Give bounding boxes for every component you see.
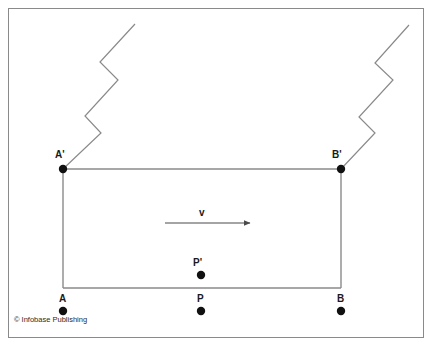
publisher-credit: © Infobase Publishing — [14, 316, 87, 324]
zigzag-line-right — [341, 25, 409, 169]
point-b — [337, 307, 345, 315]
label-p-prime: P' — [193, 258, 202, 268]
point-a-prime — [59, 165, 67, 173]
label-b: B — [337, 294, 344, 304]
label-b-prime: B' — [332, 150, 342, 160]
point-p — [197, 307, 205, 315]
point-p-prime — [197, 271, 205, 279]
point-a — [59, 307, 67, 315]
label-a-prime: A' — [55, 150, 65, 160]
label-velocity: v — [199, 208, 205, 218]
zigzag-line-left — [63, 24, 135, 169]
label-a: A — [59, 294, 66, 304]
figure-container: A' B' P' A P B v © Infobase Publishing — [0, 0, 432, 348]
label-p: P — [197, 294, 204, 304]
moving-frame-rectangle — [63, 169, 341, 288]
point-b-prime — [337, 165, 345, 173]
